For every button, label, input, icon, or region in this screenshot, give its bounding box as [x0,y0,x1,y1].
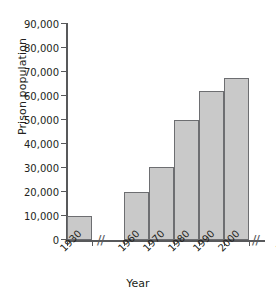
y-tick-label-90000: 90,000 [1,19,59,30]
y-tick-label-80000: 80,000 [1,43,59,54]
y-axis-title: Prison population [16,17,29,157]
x-axis-title: Year [0,277,276,290]
x-tick-mark-7 [249,241,250,246]
y-tick-label-40000: 40,000 [1,139,59,150]
y-tick-label-70000: 70,000 [1,67,59,78]
bar-2000 [224,78,249,240]
y-tick-label-50000: 50,000 [1,115,59,126]
bar-1990 [199,91,224,240]
bar-1980 [174,120,199,240]
x-tick-mark-1 [92,241,93,246]
x-tick-label-2015: 2015 [274,228,276,254]
y-tick-label-10000: 10,000 [1,211,59,222]
y-tick-label-0: 0 [1,235,59,246]
y-tick-label-20000: 20,000 [1,187,59,198]
axis-break-left: // [97,232,104,247]
bar-1970 [149,167,174,240]
y-tick-label-30000: 30,000 [1,163,59,174]
y-axis-line [66,23,68,241]
y-tick-label-60000: 60,000 [1,91,59,102]
prison-population-bar-chart: Prison population 90,000 80,000 70,000 6… [0,0,276,296]
axis-break-right: // [252,232,259,247]
